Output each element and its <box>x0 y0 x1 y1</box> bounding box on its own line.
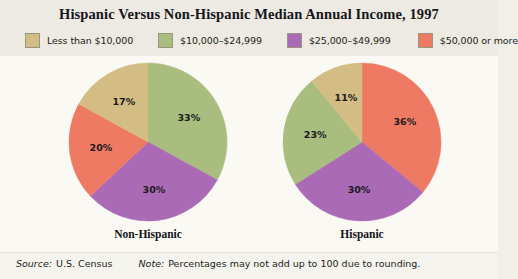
legend-item-25000-49999: $25,000–$49,999 <box>287 33 391 48</box>
legend-item-10000-24999: $10,000–$24,999 <box>158 33 262 48</box>
pie-slice-label: 36% <box>394 116 417 127</box>
legend-swatch-icon <box>158 33 173 48</box>
note-group: Note: Percentages may not add up to 100 … <box>139 258 421 269</box>
pie-chart-non-hispanic: 33%30%20%17% <box>68 62 228 222</box>
pie-slice-label: 33% <box>177 112 200 123</box>
note-value: Percentages may not add up to 100 due to… <box>168 258 420 269</box>
legend-item-less-than-10000: Less than $10,000 <box>25 33 133 48</box>
pie-slice-label: 20% <box>90 142 113 153</box>
legend-swatch-icon <box>418 33 433 48</box>
legend-swatch-icon <box>287 33 302 48</box>
pie-caption-non-hispanic: Non-Hispanic <box>68 228 228 240</box>
source-label: Source: <box>16 258 52 269</box>
pie-chart-hispanic: 36%30%23%11% <box>282 62 442 222</box>
pie-slice-label: 11% <box>335 92 358 103</box>
pie-slice-label: 17% <box>112 96 135 107</box>
legend: Less than $10,000 $10,000–$24,999 $25,00… <box>0 29 498 51</box>
legend-item-label: $25,000–$49,999 <box>309 35 391 46</box>
note-label: Note: <box>139 258 165 269</box>
pie-slice-label: 23% <box>304 129 327 140</box>
pie-svg-hispanic: 36%30%23%11% <box>282 62 442 222</box>
pie-slice-label: 30% <box>348 184 371 195</box>
page-title: Hispanic Versus Non-Hispanic Median Annu… <box>0 6 498 23</box>
legend-item-label: $10,000–$24,999 <box>180 35 262 46</box>
legend-swatch-icon <box>25 33 40 48</box>
source-value: U.S. Census <box>56 258 112 269</box>
footer: Source: U.S. Census Note: Percentages ma… <box>16 258 420 269</box>
pie-slice-label: 30% <box>143 184 166 195</box>
pie-caption-hispanic: Hispanic <box>282 228 442 240</box>
pie-svg-non-hispanic: 33%30%20%17% <box>68 62 228 222</box>
legend-item-50000-or-more: $50,000 or more <box>418 33 518 48</box>
legend-item-label: Less than $10,000 <box>47 35 133 46</box>
legend-item-label: $50,000 or more <box>440 35 518 46</box>
